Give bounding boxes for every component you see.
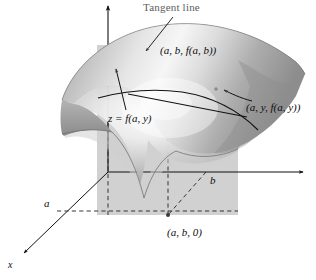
axis-label-b: b <box>210 175 216 186</box>
point-curve-dot <box>214 87 217 90</box>
point-curve-label: (a, y, f(a, y)) <box>246 102 300 113</box>
point-surface-label: (a, b, f(a, b)) <box>160 45 216 56</box>
axis-label-x: x <box>8 260 12 270</box>
tangent-line-label: Tangent line <box>143 2 200 13</box>
figure-canvas: Tangent line (a, b, f(a, b)) (a, y, f(a,… <box>0 0 316 280</box>
surface-diagram-svg <box>0 0 316 280</box>
point-base-label: (a, b, 0) <box>167 227 202 238</box>
axis-label-a: a <box>44 198 50 209</box>
point-base-dot <box>166 213 170 217</box>
x-axis <box>24 172 108 253</box>
curve-equation-label: z = f(a, y) <box>108 113 151 124</box>
